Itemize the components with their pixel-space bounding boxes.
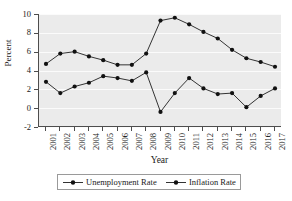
data-point	[115, 63, 119, 67]
data-point	[201, 30, 205, 34]
data-point	[87, 81, 91, 85]
y-axis-title: Percent	[3, 23, 13, 83]
data-point	[144, 51, 148, 55]
x-tick-mark	[145, 127, 146, 131]
data-point	[115, 76, 119, 80]
chart-figure: -20246810 Percent 2001200220032004200520…	[0, 0, 292, 201]
x-tick-mark	[174, 127, 175, 131]
x-tick-mark	[131, 127, 132, 131]
legend-entry-inflation-rate[interactable]: Inflation Rate	[165, 178, 236, 187]
x-tick-mark	[160, 127, 161, 131]
y-tick-label: 6	[27, 47, 31, 56]
x-tick-mark	[217, 127, 218, 131]
y-tick-mark	[34, 71, 38, 72]
y-tick-mark	[34, 89, 38, 90]
y-tick-label: 0	[27, 104, 31, 113]
data-point	[273, 86, 277, 90]
data-point	[73, 50, 77, 54]
data-point	[201, 86, 205, 90]
x-tick-mark	[202, 127, 203, 131]
data-point	[44, 62, 48, 66]
data-point	[273, 65, 277, 69]
data-point	[73, 84, 77, 88]
x-tick-label: 2011	[192, 133, 201, 150]
data-point	[130, 79, 134, 83]
x-tick-mark	[231, 127, 232, 131]
data-point	[144, 70, 148, 74]
series-line	[46, 18, 275, 67]
y-tick-label: -2	[24, 123, 31, 132]
x-tick-label: 2013	[221, 133, 230, 150]
legend-label-unemployment-rate: Unemployment Rate	[86, 178, 157, 187]
x-tick-label: 2012	[206, 133, 215, 150]
legend-line-marker-icon	[62, 178, 84, 187]
data-point	[216, 36, 220, 40]
data-point	[230, 91, 234, 95]
data-point	[259, 94, 263, 98]
data-point	[87, 54, 91, 58]
x-tick-label: 2008	[149, 133, 158, 150]
x-tick-mark	[188, 127, 189, 131]
x-tick-mark	[245, 127, 246, 131]
data-point	[259, 60, 263, 64]
y-tick-label: 8	[27, 28, 31, 37]
chart-legend: Unemployment Rate Inflation Rate	[57, 174, 241, 190]
x-tick-label: 2007	[135, 133, 144, 150]
x-tick-label: 2006	[121, 133, 130, 150]
data-point	[58, 91, 62, 95]
legend-entry-unemployment-rate[interactable]: Unemployment Rate	[62, 178, 157, 187]
x-tick-label: 2002	[63, 133, 72, 150]
y-tick-mark	[34, 52, 38, 53]
data-point	[101, 58, 105, 62]
data-point	[58, 51, 62, 55]
x-tick-label: 2001	[49, 133, 58, 150]
x-tick-mark	[59, 127, 60, 131]
x-tick-label: 2016	[264, 133, 273, 150]
x-tick-mark	[102, 127, 103, 131]
y-tick-mark	[34, 14, 38, 15]
chart-title	[0, 0, 292, 1]
y-tick-mark	[34, 108, 38, 109]
series-inflation-rate	[44, 70, 277, 114]
x-tick-mark	[88, 127, 89, 131]
y-tick-label: 10	[23, 10, 32, 19]
x-axis-title: Year	[38, 155, 281, 165]
x-tick-label: 2017	[278, 133, 287, 150]
data-point	[130, 63, 134, 67]
data-point	[230, 48, 234, 52]
y-tick-label: 2	[27, 85, 31, 94]
x-tick-label: 2014	[235, 133, 244, 150]
data-point	[244, 56, 248, 60]
series-layer	[39, 14, 282, 127]
data-point	[173, 16, 177, 20]
data-point	[44, 80, 48, 84]
x-tick-mark	[260, 127, 261, 131]
legend-label-inflation-rate: Inflation Rate	[189, 178, 236, 187]
x-tick-mark	[74, 127, 75, 131]
legend-line-marker-icon	[165, 178, 187, 187]
x-tick-label: 2015	[249, 133, 258, 150]
x-tick-label: 2009	[164, 133, 173, 150]
series-line	[46, 72, 275, 112]
y-tick-mark	[34, 33, 38, 34]
data-point	[173, 91, 177, 95]
data-point	[101, 74, 105, 78]
data-point	[158, 110, 162, 114]
data-point	[216, 92, 220, 96]
x-tick-label: 2010	[178, 133, 187, 150]
x-tick-label: 2003	[78, 133, 87, 150]
plot-area	[38, 14, 281, 127]
data-point	[244, 105, 248, 109]
data-point	[187, 76, 191, 80]
x-tick-mark	[45, 127, 46, 131]
x-tick-mark	[274, 127, 275, 131]
x-tick-mark	[117, 127, 118, 131]
x-tick-label: 2005	[106, 133, 115, 150]
x-tick-label: 2004	[92, 133, 101, 150]
series-unemployment-rate	[44, 16, 277, 69]
y-tick-label: 4	[27, 66, 31, 75]
data-point	[187, 22, 191, 26]
data-point	[158, 18, 162, 22]
